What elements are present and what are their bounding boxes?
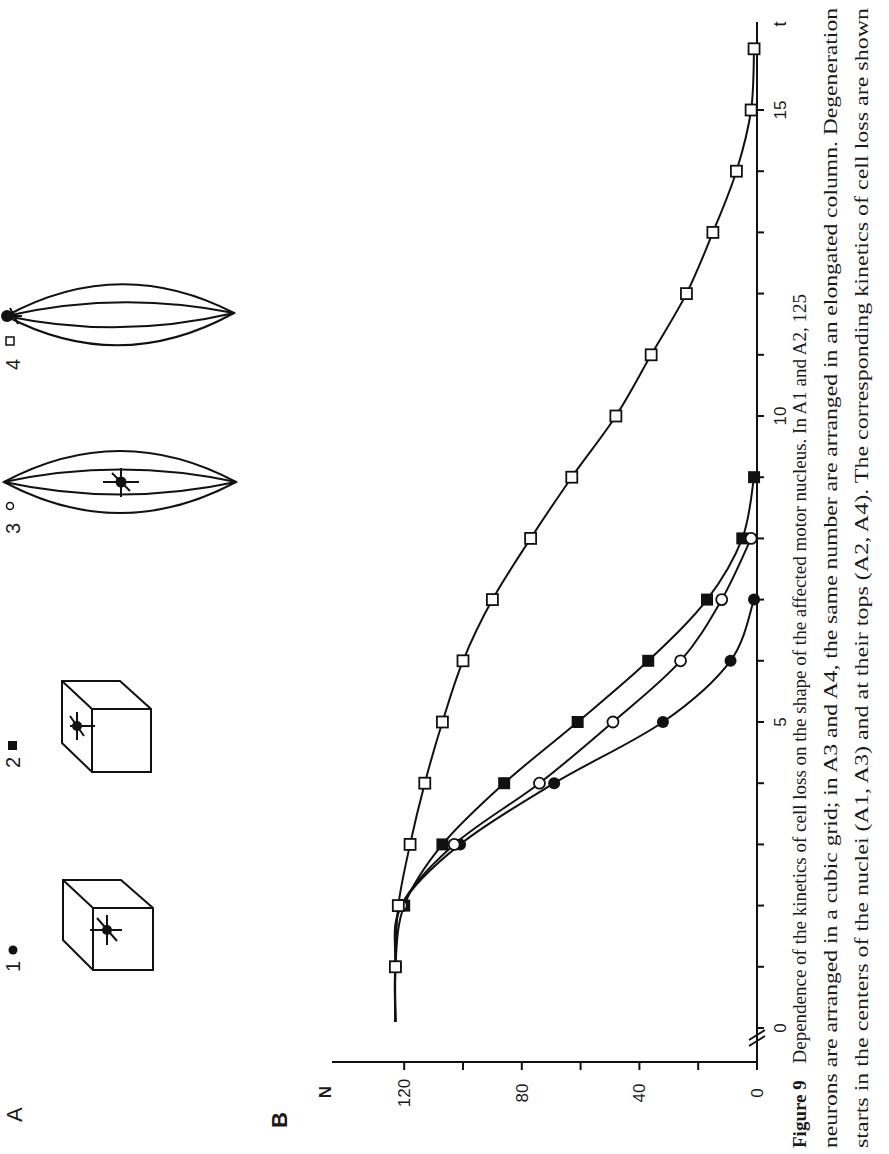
- caption-line-3: starts in the centers of the nuclei (A1,…: [851, 7, 873, 1148]
- open-square-marker-icon: [566, 472, 577, 483]
- caption-line-1-text: Dependence of the kinetics of cell loss …: [789, 294, 810, 1063]
- filled-circle-marker-icon: [9, 946, 18, 955]
- panel-a1-index: 1: [2, 961, 24, 972]
- t-tick-label: 0: [771, 1023, 790, 1032]
- filled-circle-marker-icon: [548, 777, 560, 789]
- open-circle-marker-icon: [449, 839, 460, 850]
- open-square-marker-icon: [437, 717, 448, 728]
- open-square-marker-icon: [6, 337, 14, 345]
- n-axis-label: N: [316, 1086, 335, 1098]
- open-square-marker-icon: [646, 349, 657, 360]
- open-square-marker-icon: [419, 778, 430, 789]
- open-square-marker-icon: [707, 227, 718, 238]
- elongated-column-icon: [4, 451, 236, 513]
- open-circle-marker-icon: [534, 778, 545, 789]
- panel-a1: 1: [2, 880, 153, 972]
- panel-a4-index: 4: [2, 359, 24, 370]
- cube-icon: [62, 681, 151, 772]
- open-circle-marker-icon: [675, 655, 686, 666]
- chart-series: [389, 43, 760, 1022]
- open-square-marker-icon: [746, 105, 757, 116]
- panel-label-a: A: [2, 1107, 27, 1122]
- figure-label: Figure 9: [789, 1080, 810, 1148]
- cell-loss-chart: 051015t04080120N: [316, 21, 790, 1107]
- figure-9-page: A 1 2: [0, 0, 889, 1154]
- n-tick-label: 120: [395, 1079, 414, 1107]
- open-square-marker-icon: [393, 900, 404, 911]
- series-open-square: [390, 43, 760, 1022]
- filled-square-marker-icon: [748, 471, 760, 483]
- open-square-marker-icon: [405, 839, 416, 850]
- n-tick-label: 40: [630, 1084, 649, 1103]
- open-square-marker-icon: [749, 43, 760, 54]
- t-tick-label: 15: [771, 101, 790, 120]
- filled-circle-marker-icon: [748, 594, 760, 606]
- cube-icon: [63, 880, 153, 970]
- t-axis-label: t: [770, 21, 790, 26]
- open-square-marker-icon: [458, 655, 469, 666]
- nucleus-center-icon: [103, 468, 139, 497]
- open-square-marker-icon: [681, 288, 692, 299]
- filled-circle-marker-icon: [725, 655, 737, 667]
- filled-square-marker-icon: [436, 838, 448, 850]
- figure-caption: Figure 9 Dependence of the kinetics of c…: [789, 7, 873, 1148]
- open-circle-marker-icon: [607, 717, 618, 728]
- filled-square-marker-icon: [572, 716, 584, 728]
- nucleus-center-icon: [90, 915, 122, 945]
- n-tick-label: 0: [748, 1088, 767, 1097]
- open-square-marker-icon: [610, 411, 621, 422]
- panel-a3-index: 3: [2, 523, 24, 534]
- open-circle-marker-icon: [7, 503, 14, 510]
- series-line: [395, 49, 754, 1022]
- open-square-marker-icon: [731, 166, 742, 177]
- n-tick-label: 80: [513, 1084, 532, 1103]
- series-line: [395, 600, 754, 1022]
- series-filled-circle: [389, 594, 760, 1022]
- panel-a2: 2: [2, 681, 151, 772]
- panel-label-b: B: [267, 1112, 292, 1128]
- panel-a2-index: 2: [2, 757, 24, 768]
- caption-line-1: Figure 9 Dependence of the kinetics of c…: [789, 294, 810, 1148]
- filled-square-marker-icon: [642, 655, 654, 667]
- chart-axes: 051015t04080120N: [316, 21, 790, 1107]
- filled-square-marker-icon: [498, 777, 510, 789]
- panel-a4: 4: [1, 284, 234, 370]
- filled-square-marker-icon: [701, 594, 713, 606]
- panel-a3: 3: [2, 451, 236, 534]
- filled-circle-marker-icon: [657, 716, 669, 728]
- open-square-marker-icon: [525, 533, 536, 544]
- caption-line-2: neurons are arranged in a cubic grid; in…: [820, 7, 841, 1148]
- elongated-column-icon: [1, 284, 234, 345]
- open-square-marker-icon: [487, 594, 498, 605]
- open-circle-marker-icon: [716, 594, 727, 605]
- series-filled-square: [389, 471, 760, 1022]
- open-square-marker-icon: [390, 961, 401, 972]
- filled-square-marker-icon: [8, 741, 17, 750]
- open-circle-marker-icon: [746, 533, 757, 544]
- series-line: [395, 477, 754, 1022]
- t-tick-label: 10: [771, 407, 790, 426]
- t-tick-label: 5: [771, 717, 790, 726]
